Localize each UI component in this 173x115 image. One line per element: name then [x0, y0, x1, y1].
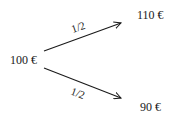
up-outcome-value: 110 €	[137, 9, 164, 21]
root-value: 100 €	[10, 54, 37, 66]
probability-tree-diagram: 100 € 110 € 90 € 1/2 1/2	[0, 0, 173, 115]
down-outcome-value: 90 €	[140, 101, 161, 113]
